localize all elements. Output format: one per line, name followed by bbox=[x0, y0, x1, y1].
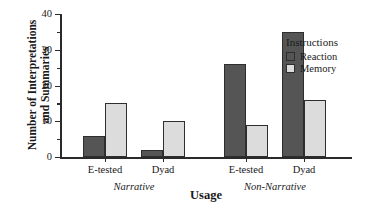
y-tick-label: 30 bbox=[26, 45, 52, 56]
category-label: Dyad bbox=[152, 164, 175, 175]
legend-swatch-icon bbox=[286, 52, 295, 61]
x-axis-line bbox=[60, 157, 352, 159]
bar-memory-0 bbox=[105, 103, 127, 157]
bar-reaction-2 bbox=[224, 64, 246, 157]
y-tick-label: 0 bbox=[26, 152, 52, 163]
bar-memory-1 bbox=[163, 121, 185, 157]
y-tick-label: 40 bbox=[26, 9, 52, 20]
x-tick bbox=[246, 157, 247, 162]
x-tick bbox=[304, 157, 305, 162]
bar-reaction-1 bbox=[141, 150, 163, 157]
legend-item: Memory bbox=[286, 63, 366, 74]
bar-chart: Number of Interpretations and Summaries … bbox=[0, 0, 367, 211]
y-axis-tick-labels: 010203040 bbox=[26, 14, 52, 157]
y-tick-major bbox=[55, 157, 60, 158]
x-axis-title: Usage bbox=[60, 188, 352, 203]
bar-memory-3 bbox=[304, 100, 326, 157]
legend-label: Reaction bbox=[300, 51, 337, 62]
x-tick bbox=[105, 157, 106, 162]
x-tick bbox=[163, 157, 164, 162]
category-label: Dyad bbox=[293, 164, 316, 175]
bar-memory-2 bbox=[246, 125, 268, 157]
category-label: E-tested bbox=[88, 164, 122, 175]
legend-title: Instructions bbox=[286, 36, 366, 48]
y-tick-label: 10 bbox=[26, 116, 52, 127]
y-tick-label: 20 bbox=[26, 81, 52, 92]
legend-item: Reaction bbox=[286, 51, 366, 62]
legend-label: Memory bbox=[300, 63, 336, 74]
legend-items: ReactionMemory bbox=[286, 51, 366, 74]
bar-reaction-0 bbox=[83, 136, 105, 157]
legend-swatch-icon bbox=[286, 64, 295, 73]
category-label: E-tested bbox=[229, 164, 263, 175]
legend: Instructions ReactionMemory bbox=[286, 36, 366, 74]
